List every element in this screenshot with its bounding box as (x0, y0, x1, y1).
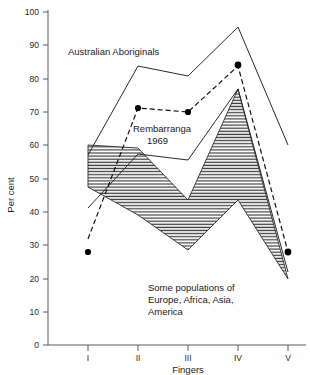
y-tick-label-80: 80 (30, 74, 40, 84)
y-tick-label-90: 90 (30, 40, 40, 50)
annotation-other-populations-line3: America (148, 306, 184, 317)
annotation-rembarranga-name: Rembarranga (133, 123, 192, 134)
y-axis-title: Per cent (5, 177, 16, 213)
y-axis-ticks (43, 12, 48, 345)
y-tick-label-50: 50 (30, 174, 40, 184)
x-tick-label-i: I (87, 353, 89, 363)
rembarranga-marker-i (85, 249, 91, 255)
x-tick-label-v: V (285, 353, 291, 363)
annotation-other-populations-line2: Europe, Africa, Asia, (148, 294, 234, 305)
rembarranga-marker-iii (185, 109, 191, 115)
rembarranga-marker-ii (135, 105, 141, 111)
annotation-rembarranga-year: 1969 (147, 135, 168, 146)
x-tick-label-ii: II (136, 353, 141, 363)
x-tick-label-iii: III (184, 353, 191, 363)
x-axis-title: Fingers (172, 364, 204, 375)
x-axis-ticks (88, 345, 288, 351)
series-other-populations-band (88, 89, 288, 279)
y-tick-label-40: 40 (30, 207, 40, 217)
y-tick-label-100: 100 (25, 7, 39, 17)
y-tick-label-10: 10 (30, 307, 40, 317)
x-tick-label-iv: IV (234, 353, 242, 363)
annotation-australian-aboriginals: Australian Aboriginals (68, 46, 160, 57)
y-tick-label-70: 70 (30, 107, 40, 117)
y-tick-label-30: 30 (30, 240, 40, 250)
chart-figure: 100 90 80 70 60 50 40 30 20 10 0 I II II… (0, 0, 310, 375)
annotation-other-populations-line1: Some populations of (148, 282, 235, 293)
chart-canvas: 100 90 80 70 60 50 40 30 20 10 0 I II II… (0, 0, 310, 375)
y-tick-label-60: 60 (30, 140, 40, 150)
y-tick-label-20: 20 (30, 274, 40, 284)
rembarranga-marker-iv (235, 62, 242, 69)
rembarranga-marker-v (285, 249, 292, 256)
y-tick-label-0: 0 (34, 340, 39, 350)
